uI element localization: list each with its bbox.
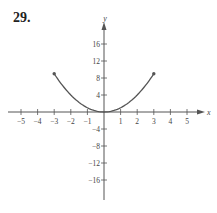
x-tick-label: 3 [152,117,156,126]
y-tick-label: −4 [92,125,100,134]
y-tick-label: 16 [93,40,101,49]
y-tick-label: 8 [96,74,100,83]
x-tick-label: −4 [34,117,42,126]
x-tick-label: 1 [119,117,123,126]
chart: xy −5−4−3−2−112345161284−4−8−12−16 [0,0,217,213]
x-tick-label: 5 [185,117,189,126]
y-tick-label: 4 [96,91,100,100]
y-axis-label: y [102,14,107,23]
x-tick-label: −5 [17,117,25,126]
axes: xy [8,14,211,200]
x-tick-label: 4 [169,117,173,126]
x-tick-label: 2 [135,117,139,126]
y-tick-label: 12 [93,57,101,66]
x-tick-label: −1 [83,117,91,126]
y-tick-label: −8 [92,142,100,151]
y-axis-arrow-icon [102,22,107,30]
endpoint-dot [152,72,155,75]
x-tick-label: −2 [67,117,75,126]
y-tick-label: −16 [88,176,100,185]
x-axis-arrow-icon [197,110,205,115]
endpoint-dot [53,72,56,75]
y-tick-label: −12 [88,159,100,168]
x-axis-label: x [206,108,211,117]
x-tick-label: −3 [50,117,58,126]
